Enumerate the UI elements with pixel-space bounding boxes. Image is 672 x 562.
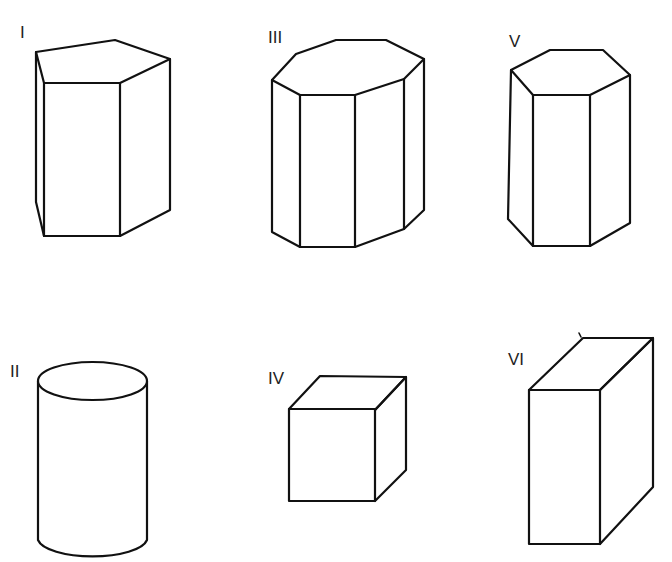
cylinder-II [38,362,147,556]
rectangular-prism-VI [529,333,653,544]
label-III: III [268,29,282,46]
solids-figure [0,0,672,562]
label-IV: IV [268,370,284,387]
cube-IV [289,376,406,501]
label-II: II [10,363,19,380]
label-I: I [20,24,25,41]
hexagonal-prism-V [508,50,630,246]
label-V: V [509,33,520,50]
label-VI: VI [508,351,524,368]
pentagonal-prism-I [36,40,170,236]
octagonal-prism-III [272,40,424,247]
